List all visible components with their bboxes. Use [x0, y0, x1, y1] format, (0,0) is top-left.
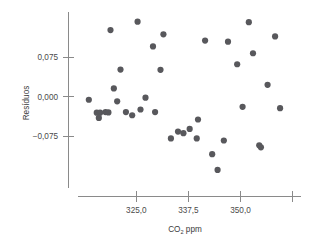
data-point: [264, 82, 270, 88]
data-point: [117, 66, 123, 72]
scatter-chart: 0,0750,000−0,075 325,0337,5350,0 Resíduo…: [0, 0, 320, 251]
data-point: [272, 33, 278, 39]
data-point: [209, 151, 215, 157]
data-point: [160, 31, 166, 37]
data-point: [86, 97, 92, 103]
data-point: [150, 43, 156, 49]
data-point: [168, 135, 174, 141]
axes: [69, 12, 302, 197]
data-point: [195, 116, 201, 122]
data-point: [202, 38, 208, 44]
x-tick-label: 350,0: [230, 206, 251, 215]
x-tick-label: 325,0: [126, 206, 147, 215]
data-point: [142, 95, 148, 101]
data-point: [225, 39, 231, 45]
data-point: [152, 109, 158, 115]
y-tick-label: 0,075: [38, 53, 59, 62]
y-axis-title: Resíduos: [22, 86, 31, 121]
data-point: [180, 130, 186, 136]
data-point: [214, 167, 220, 173]
x-axis-ticks: 325,0337,5350,0: [126, 191, 293, 215]
data-point: [96, 115, 102, 121]
data-point: [157, 67, 163, 73]
data-point: [114, 98, 120, 104]
x-axis-title: CO2 ppm: [168, 225, 202, 235]
data-point: [234, 61, 240, 67]
x-axis-title-tail: ppm: [184, 225, 202, 234]
data-point: [123, 109, 129, 115]
x-tick-label: 337,5: [178, 206, 199, 215]
y-tick-label: −0,075: [33, 132, 59, 141]
data-point: [107, 27, 113, 33]
data-point: [111, 85, 117, 91]
data-point: [134, 19, 140, 25]
x-axis-title-base: CO: [168, 225, 180, 234]
data-point: [221, 137, 227, 143]
data-points: [86, 19, 283, 173]
data-point: [246, 19, 252, 25]
data-point: [175, 128, 181, 134]
data-point: [129, 112, 135, 118]
data-point: [250, 50, 256, 56]
data-point: [105, 109, 111, 115]
plot-area: 0,0750,000−0,075 325,0337,5350,0 Resíduo…: [0, 0, 320, 251]
data-point: [277, 105, 283, 111]
data-point: [97, 110, 103, 116]
data-point: [239, 104, 245, 110]
data-point: [258, 144, 264, 150]
data-point: [137, 106, 143, 112]
y-tick-label: 0,000: [38, 93, 59, 102]
y-axis-ticks: 0,0750,000−0,075: [33, 53, 74, 141]
data-point: [194, 135, 200, 141]
data-point: [187, 126, 193, 132]
